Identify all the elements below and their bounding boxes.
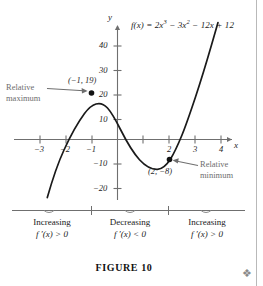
y-tick-label-10: 10 [99, 115, 108, 124]
y-tick-label-minus-10: −10 [93, 159, 107, 168]
interval-label-decreasing-middle: Decreasing f ′(x) < 0 [91, 216, 169, 240]
function-expression-head: f(x) = 2x [131, 20, 163, 30]
graph-plot [0, 0, 263, 286]
x-tick-label-minus-2: −2 [60, 145, 70, 154]
x-tick-label-minus-3: −3 [34, 145, 44, 154]
cubic-curve [47, 23, 218, 198]
interval-number-line [12, 206, 245, 215]
interval-word-left: Increasing [12, 216, 92, 228]
relative-maximum-callout-line1: Relative [6, 82, 40, 93]
interval-derivative-right: f ′(x) > 0 [168, 228, 246, 240]
x-tick-label-2: 2 [167, 145, 171, 154]
relative-maximum-callout-line2: maximum [6, 93, 40, 104]
figure-container: y x f(x) = 2x3 − 3x2 − 12x + 12 40 30 20… [0, 0, 263, 286]
y-axis-label: y [108, 13, 112, 22]
x-tick-label-4: 4 [219, 145, 223, 154]
y-tick-label-30: 30 [99, 66, 108, 75]
relative-maximum-callout: Relative maximum [6, 82, 40, 103]
y-tick-label-20: 20 [99, 90, 108, 99]
function-expression-label: f(x) = 2x3 − 3x2 − 12x + 12 [131, 19, 234, 30]
relative-minimum-callout: Relative minimum [200, 159, 233, 180]
y-tick-label-40: 40 [99, 41, 108, 50]
y-tick-label-minus-20: −20 [93, 184, 107, 193]
x-tick-label-minus-1: −1 [86, 145, 96, 154]
relative-minimum-callout-line1: Relative [200, 159, 233, 170]
relative-minimum-point-label: (2, −8) [148, 167, 172, 176]
relative-maximum-point-label: (−1, 19) [68, 76, 96, 85]
y-axis [114, 25, 122, 200]
relative-maximum-point-marker [89, 90, 95, 96]
interval-word-middle: Decreasing [91, 216, 169, 228]
relative-minimum-point-marker [167, 157, 173, 163]
x-axis [14, 136, 232, 144]
relative-minimum-arrow [173, 158, 198, 165]
x-tick-label-3: 3 [193, 145, 197, 154]
interval-label-increasing-left: Increasing f ′(x) > 0 [12, 216, 92, 240]
interval-word-right: Increasing [168, 216, 246, 228]
function-expression-tail: − 12x + 12 [190, 20, 234, 30]
relative-minimum-callout-line2: minimum [200, 170, 233, 181]
four-point-diamond-icon: ❖ [241, 267, 253, 279]
interval-derivative-middle: f ′(x) < 0 [91, 228, 169, 240]
interval-label-increasing-right: Increasing f ′(x) > 0 [168, 216, 246, 240]
function-expression-mid: − 3x [167, 20, 187, 30]
x-axis-label: x [234, 141, 238, 150]
interval-derivative-left: f ′(x) > 0 [12, 228, 92, 240]
relative-maximum-arrow [47, 88, 88, 93]
figure-caption: FIGURE 10 [0, 262, 248, 273]
